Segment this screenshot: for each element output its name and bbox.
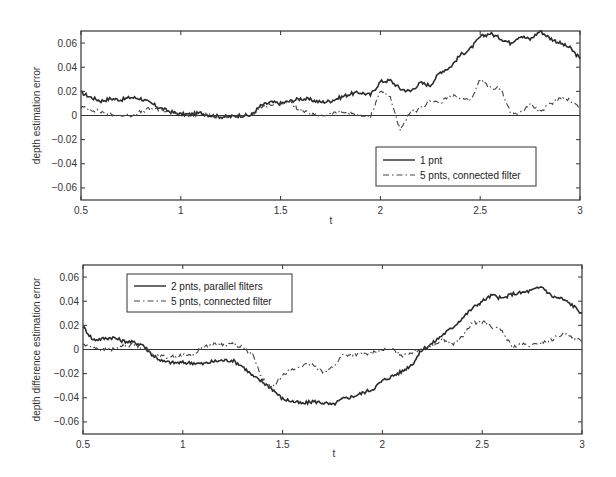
top-legend: 1 pnt 5 pnts, connected filter [376, 147, 536, 186]
figure: 0.511.522.530.060.040.020−0.02−0.04−0.06… [0, 0, 616, 477]
top-ylabel: depth estimation error [31, 66, 42, 164]
bottom-plot: 0.511.522.530.060.040.020−0.02−0.04−0.06… [31, 265, 585, 459]
top-xlabel: t [330, 215, 333, 226]
x-tick-label: 3 [577, 205, 583, 216]
y-tick-label: −0.02 [54, 368, 80, 379]
y-tick-label: 0.06 [60, 272, 80, 283]
x-tick-label: 1.5 [274, 205, 288, 216]
x-tick-label: 1.5 [276, 439, 290, 450]
x-tick-label: 2 [380, 439, 386, 450]
top-plot-ticks: 0.511.522.530.060.040.020−0.02−0.04−0.06 [52, 31, 584, 216]
y-tick-label: −0.04 [54, 392, 80, 403]
y-tick-label: 0.06 [58, 38, 78, 49]
y-tick-label: −0.02 [52, 134, 78, 145]
bottom-series-5pnts [83, 321, 582, 388]
x-tick-label: 1 [180, 439, 186, 450]
y-tick-label: 0 [71, 110, 77, 121]
x-tick-label: 2.5 [475, 439, 489, 450]
x-tick-label: 2 [378, 205, 384, 216]
y-tick-label: 0.02 [60, 320, 80, 331]
x-tick-label: 2.5 [473, 205, 487, 216]
y-tick-label: −0.04 [52, 158, 78, 169]
y-tick-label: −0.06 [54, 416, 80, 427]
y-tick-label: 0.04 [60, 296, 80, 307]
top-series-1pnt [81, 31, 580, 118]
y-tick-label: 0 [73, 344, 79, 355]
top-legend-label-1: 1 pnt [420, 155, 442, 166]
top-legend-label-2: 5 pnts, connected filter [420, 170, 521, 181]
top-plot: 0.511.522.530.060.040.020−0.02−0.04−0.06… [31, 31, 583, 226]
x-tick-label: 0.5 [74, 205, 88, 216]
x-tick-label: 1 [178, 205, 184, 216]
x-tick-label: 0.5 [76, 439, 90, 450]
y-tick-label: 0.02 [58, 86, 78, 97]
y-tick-label: −0.06 [52, 182, 78, 193]
bottom-legend: 2 pnts, parallel filters 5 pnts, connect… [127, 274, 292, 312]
bottom-legend-label-2: 5 pnts, connected filter [171, 296, 272, 307]
bottom-legend-label-1: 2 pnts, parallel filters [171, 281, 263, 292]
y-tick-label: 0.04 [58, 62, 78, 73]
x-tick-label: 3 [579, 439, 585, 450]
bottom-xlabel: t [333, 448, 336, 459]
bottom-ylabel: depth difference estimation error [31, 277, 42, 421]
